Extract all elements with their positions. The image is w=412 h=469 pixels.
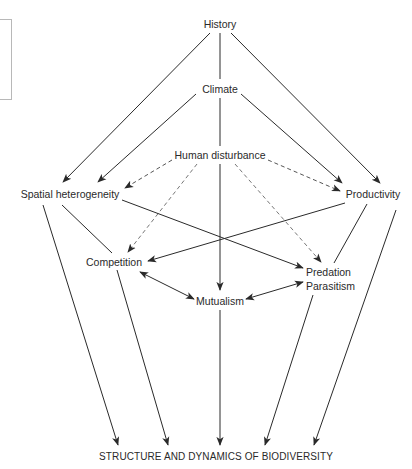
node-spatial-heterogeneity: Spatial heterogeneity: [21, 188, 120, 200]
edge-productivity-outcome: [314, 210, 396, 445]
edge-competition-mutualism: [140, 272, 194, 299]
edge-competition-outcome: [117, 270, 168, 445]
edge-mutualism-predation: [246, 282, 303, 299]
edge-productivity-competition: [148, 203, 345, 261]
node-history: History: [204, 18, 237, 30]
edge-predation-outcome: [265, 295, 313, 445]
node-climate: Climate: [202, 83, 238, 95]
edge-human-spatial: [125, 160, 172, 188]
edge-human-productivity: [268, 160, 340, 191]
node-parasitism: Parasitism: [306, 280, 355, 292]
node-predation: Predation: [306, 266, 351, 278]
edge-spatial-competition: [62, 205, 112, 253]
edge-climate-spatial: [98, 94, 196, 182]
node-human-disturbance: Human disturbance: [174, 149, 265, 161]
node-outcome: STRUCTURE AND DYNAMICS OF BIODIVERSITY: [99, 451, 333, 462]
edge-climate-productivity: [241, 94, 342, 183]
edge-spatial-outcome: [43, 205, 118, 445]
edge-spatial-predation: [122, 200, 303, 268]
node-mutualism: Mutualism: [196, 295, 244, 307]
node-competition: Competition: [86, 256, 142, 268]
edge-productivity-predation: [334, 204, 367, 263]
edge-human-competition: [128, 164, 197, 252]
node-productivity: Productivity: [346, 188, 401, 200]
biodiversity-diagram: History Climate Human disturbance Spatia…: [0, 0, 412, 469]
